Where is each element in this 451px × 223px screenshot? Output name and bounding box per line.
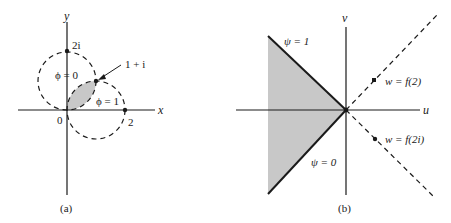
origin-point-b [344, 108, 349, 113]
psi-0-label: ψ = 0 [311, 156, 337, 168]
phi-0-label: ϕ = 0 [55, 69, 78, 81]
f-2i-label: w = f(2i) [385, 133, 425, 146]
psi-1-label: ψ = 1 [284, 35, 309, 47]
point-1-plus-i [94, 79, 98, 83]
phi-1-label: ϕ = 1 [96, 95, 119, 107]
dashed-ray-upper [346, 15, 437, 110]
f-2-label: w = f(2) [385, 75, 421, 88]
point-f-2 [372, 78, 376, 82]
point-2i-label: 2i [72, 39, 81, 51]
figure: y x 2i 0 2 1 + i ϕ = 0 ϕ = 1 (a) v u ψ =… [0, 0, 451, 223]
arrow-head-icon [98, 74, 106, 80]
panel-b: v u ψ = 1 ψ = 0 w = f(2) w = f(2i) (b) [236, 11, 437, 215]
shaded-wedge-region [268, 36, 346, 194]
v-axis-label: v [342, 11, 348, 25]
x-axis-label: x [157, 103, 164, 117]
u-axis-label: u [423, 103, 429, 117]
point-2-label: 2 [128, 116, 134, 128]
point-1-plus-i-label: 1 + i [125, 58, 145, 70]
dashed-ray-lower [346, 110, 433, 196]
panel-a: y x 2i 0 2 1 + i ϕ = 0 ϕ = 1 (a) [18, 9, 164, 215]
origin-label: 0 [57, 114, 63, 126]
point-2 [123, 108, 127, 112]
caption-a: (a) [60, 202, 73, 215]
point-2i [65, 49, 69, 53]
point-f-2i [373, 137, 377, 141]
caption-b: (b) [338, 202, 351, 215]
y-axis-label: y [63, 9, 70, 23]
